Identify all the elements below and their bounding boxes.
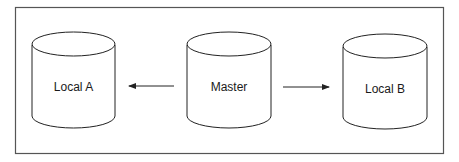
cylinder-top	[187, 32, 271, 56]
database-master: Master	[187, 32, 271, 128]
node-label: Local B	[365, 82, 405, 96]
node-label: Local A	[54, 80, 93, 94]
cylinder-top	[32, 32, 115, 56]
database-local-b: Local B	[343, 34, 427, 129]
cylinder-top	[343, 34, 427, 58]
node-label: Master	[211, 80, 248, 94]
diagram-canvas: Local A Master Local B	[0, 0, 459, 162]
database-local-a: Local A	[32, 32, 115, 128]
